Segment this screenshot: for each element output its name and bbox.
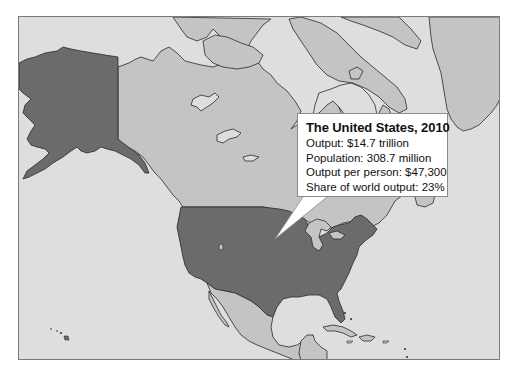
great-salt-lake <box>219 244 223 250</box>
lesser-antilles <box>406 356 408 358</box>
callout-output-per-person: Output per person: $47,300 <box>306 165 447 180</box>
hawaii-island <box>50 328 52 330</box>
callout-output: Output: $14.7 trillion <box>306 136 447 151</box>
bahamas <box>344 312 346 314</box>
hawaii-island <box>60 332 62 334</box>
callout-population: Population: 308.7 million <box>306 151 447 166</box>
callout-world-share: Share of world output: 23% <box>306 180 447 195</box>
callout-title: The United States, 2010 <box>306 120 447 136</box>
hawaii-big-island <box>64 336 69 340</box>
hawaii-island <box>56 330 58 332</box>
bahamas <box>350 318 352 320</box>
lesser-antilles <box>404 348 406 350</box>
callout-box: The United States, 2010 Output: $14.7 tr… <box>297 113 448 197</box>
